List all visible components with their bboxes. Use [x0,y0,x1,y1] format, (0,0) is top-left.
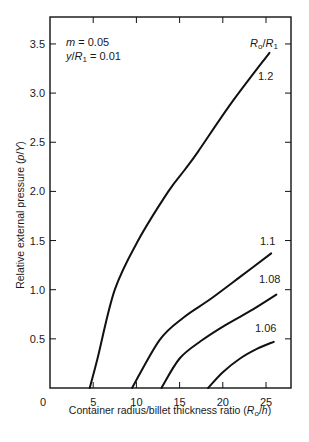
curve-label-1-06: 1.06 [255,322,276,334]
curve-1-08 [161,295,276,388]
x-axis-label: Container radius/billet thickness ratio … [69,404,271,418]
y-tick-label: 1.5 [30,235,45,247]
param-m-annotation: m = 0.05 [66,36,109,48]
curve-1-1 [132,253,271,388]
curve-label-1-08: 1.08 [259,273,280,285]
y-tick-label: 2.0 [30,185,45,197]
curve-family-label: Ro/R1 [250,37,278,51]
y-tick-label: 3.5 [30,38,45,50]
param-y-annotation: y/R1 = 0.01 [65,50,121,64]
chart-canvas: 05101520250.51.01.52.02.53.03.5 1.21.11.… [0,0,309,442]
y-tick-label: 3.0 [30,87,45,99]
curve-label-1-2: 1.2 [258,70,273,82]
y-tick-label: 0.5 [30,333,45,345]
y-tick-label: 2.5 [30,136,45,148]
curve-label-1-1: 1.1 [260,235,275,247]
curve-1-2 [90,53,270,388]
curve-1-06 [208,342,274,388]
y-tick-label: 1.0 [30,284,45,296]
curves [90,53,277,388]
x-tick-label: 0 [40,396,46,408]
y-axis-label: Relative external pressure (p/Y) [14,141,26,289]
